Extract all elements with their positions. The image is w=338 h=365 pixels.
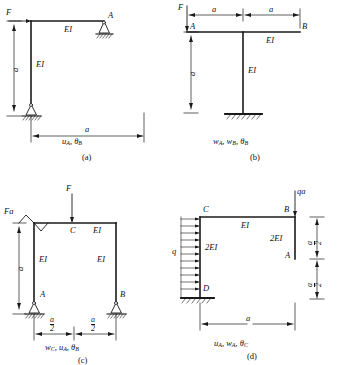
joint-c-label: C [203, 205, 209, 214]
joint-a-label: A [285, 251, 290, 260]
member-top-beam-label: EI [241, 221, 249, 230]
panel-c-results: wC, uA, θB [45, 342, 79, 352]
vertical-dim-a-label: a [16, 267, 25, 271]
frac-num: a [50, 316, 54, 324]
result-sep1: , u [55, 342, 64, 352]
member-top-beam-label: EI [93, 226, 101, 235]
frac-num: a [91, 316, 95, 324]
load-q-label: q [172, 247, 176, 256]
vertical-dim-a-label: a [188, 72, 197, 76]
load-F-arrow [185, 6, 189, 32]
half-a-dims [34, 314, 116, 340]
joint-d-label: D [203, 284, 209, 293]
fixed-support-d [181, 298, 214, 303]
pin-support-a [25, 302, 44, 319]
load-qa-label: qa [297, 187, 306, 196]
horizontal-dim-half-a-left-label: a 2 [50, 316, 54, 333]
joint-b-label: B [284, 205, 289, 214]
member-left-column-label: 2EI [205, 243, 217, 252]
member-right-column-label: 2EI [270, 234, 282, 243]
panel-d-results: uA, wA, θC [214, 338, 248, 348]
panel-a-results: uA, θB [62, 136, 82, 146]
load-F-label: F [6, 8, 11, 17]
panel-a: F A EI EI a a uA, θB (a) [0, 0, 169, 179]
panel-b-caption: (b) [250, 152, 260, 162]
horizontal-dim-a-left-label: a [212, 5, 216, 14]
frac-num: a [306, 241, 314, 245]
panel-c-caption: (c) [78, 355, 87, 365]
load-F-label: F [66, 184, 71, 193]
frac-num: a [306, 283, 314, 287]
vertical-dim-half-a-lower-label: a 2 [306, 283, 323, 287]
member-right-column-label: EI [97, 255, 105, 264]
result-sub-b: B [75, 346, 79, 352]
frac-den: 2 [314, 241, 323, 245]
member-top-beam-label: EI [266, 36, 274, 45]
member-top-beam-label: EI [64, 25, 72, 34]
panel-b: F A B EI EI a a a wA, wB, θB (b) [169, 0, 338, 179]
vertical-dim-a-label: a [11, 68, 20, 72]
member-left-column-label: EI [39, 255, 47, 264]
joint-a-label: A [40, 290, 45, 299]
pin-support-b [107, 302, 126, 319]
joint-a-label: A [108, 11, 113, 20]
horizontal-dim-a-label: a [85, 125, 89, 134]
result-sub-b2: B [244, 140, 248, 146]
panel-d-caption: (d) [247, 351, 257, 361]
pin-support-base [22, 104, 41, 121]
moment-Fa-label: Fa [4, 207, 13, 216]
result-sep2: , θ [236, 338, 244, 348]
frac-den: 2 [50, 324, 54, 333]
distributed-load-q [181, 217, 200, 297]
joint-a-label: A [190, 22, 195, 31]
pin-support-right-top [96, 21, 113, 38]
result-sep1: , w [222, 338, 232, 348]
frac-den: 2 [314, 283, 323, 287]
horizontal-dim-a-label: a [246, 314, 250, 323]
frac-den: 2 [91, 324, 95, 333]
vertical-dim-half-a-upper-label: a 2 [306, 241, 323, 245]
panel-c: Fa F C A B EI EI EI a a 2 a 2 wC, uA, θB… [0, 179, 169, 357]
horizontal-dim-a-right-label: a [269, 5, 273, 14]
load-F-label: F [178, 3, 183, 12]
horizontal-dim-half-a-right-label: a 2 [91, 316, 95, 333]
panel-a-caption: (a) [82, 152, 91, 162]
result-sub-c: C [244, 342, 248, 348]
panel-d: qa q C B A D EI 2EI 2EI a a 2 a 2 uA, wA… [169, 179, 338, 357]
joint-b-label: B [302, 22, 307, 31]
member-center-column-label: EI [248, 66, 256, 75]
joint-b-label: B [120, 290, 125, 299]
result-sep1: , w [222, 136, 232, 146]
panel-b-results: wA, wB, θB [213, 136, 248, 146]
joint-c-label: C [70, 226, 76, 235]
member-left-column-label: EI [36, 60, 44, 69]
fixed-support-base [225, 114, 262, 119]
result-sub-b: B [78, 140, 82, 146]
load-F-arrow [70, 194, 74, 223]
